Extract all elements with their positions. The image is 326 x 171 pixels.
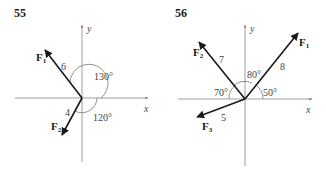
f1-magnitude: 8 bbox=[280, 61, 285, 72]
force-diagrams: 55 x y F1 6 F2 4 130° 120° 56 x y F1 8 F bbox=[0, 0, 326, 171]
angle-label-120: 120° bbox=[93, 112, 112, 123]
y-axis-label: y bbox=[249, 23, 255, 34]
angle-label-80: 80° bbox=[247, 69, 261, 80]
y-axis-label: y bbox=[86, 23, 92, 34]
f1-label: F1 bbox=[36, 51, 47, 65]
f3-label: F3 bbox=[202, 120, 213, 134]
angle-label-50: 50° bbox=[263, 87, 277, 98]
f2-label: F2 bbox=[193, 46, 204, 60]
diagram-56: 56 x y F1 8 F2 7 F3 5 80° 70° 50° bbox=[175, 6, 312, 166]
f1-magnitude: 6 bbox=[61, 61, 66, 72]
angle-arc-50 bbox=[256, 85, 263, 99]
f2-label: F2 bbox=[51, 120, 62, 134]
diagram-55: 55 x y F1 6 F2 4 130° 120° bbox=[14, 6, 149, 162]
f2-magnitude: 7 bbox=[219, 54, 224, 65]
x-axis-label: x bbox=[305, 104, 311, 115]
angle-label-70: 70° bbox=[214, 87, 228, 98]
vector-f1 bbox=[45, 50, 82, 98]
problem-number-56: 56 bbox=[175, 6, 187, 20]
f3-magnitude: 5 bbox=[221, 112, 226, 123]
angle-label-130: 130° bbox=[94, 71, 113, 82]
problem-number-55: 55 bbox=[14, 6, 26, 20]
f1-label: F1 bbox=[299, 36, 310, 50]
f2-magnitude: 4 bbox=[65, 107, 70, 118]
x-axis-label: x bbox=[143, 103, 149, 114]
